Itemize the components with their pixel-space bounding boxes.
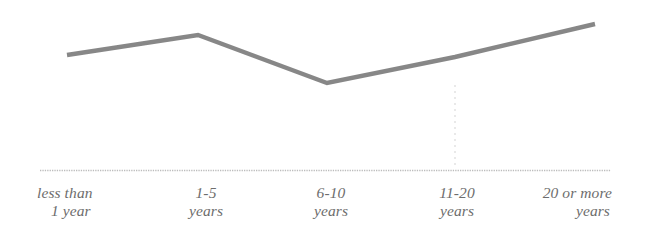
x-tick-label-20-or-more-years: 20 or more years xyxy=(506,184,612,220)
x-tick-label-line2: years xyxy=(415,202,499,220)
x-tick-label-line1: 6-10 xyxy=(289,184,373,202)
x-axis-tick-labels: less than 1 year 1-5 years 6-10 years 11… xyxy=(0,180,652,240)
x-tick-label-1-5-years: 1-5 years xyxy=(164,184,248,220)
x-tick-label-line1: 20 or more xyxy=(506,184,612,202)
x-tick-label-line2: years xyxy=(506,202,612,220)
line-chart-figure: less than 1 year 1-5 years 6-10 years 11… xyxy=(0,0,652,248)
x-tick-label-11-20-years: 11-20 years xyxy=(415,184,499,220)
x-tick-label-6-10-years: 6-10 years xyxy=(289,184,373,220)
x-tick-label-less-than-1-year: less than 1 year xyxy=(37,184,93,220)
x-tick-label-line2: 1 year xyxy=(37,202,93,220)
x-tick-label-line2: years xyxy=(164,202,248,220)
x-tick-label-line1: 1-5 xyxy=(164,184,248,202)
x-tick-label-line1: less than xyxy=(37,184,93,202)
data-series-line xyxy=(67,24,595,83)
x-tick-label-line1: 11-20 xyxy=(415,184,499,202)
x-tick-label-line2: years xyxy=(289,202,373,220)
